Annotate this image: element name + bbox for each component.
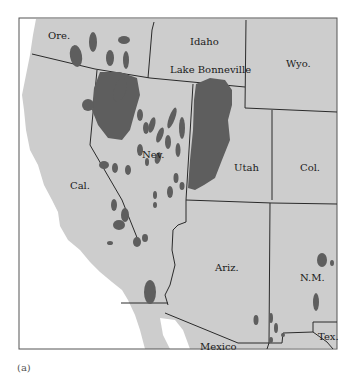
label-nevada: Nev.	[142, 149, 164, 160]
label-arizona: Ariz.	[215, 262, 239, 273]
label-lake-bonneville: Lake Bonneville	[170, 64, 251, 75]
label-wyoming: Wyo.	[286, 58, 311, 69]
label-mexico: Mexico	[200, 341, 237, 352]
figure-caption: (a)	[17, 362, 31, 373]
label-idaho: Idaho	[190, 36, 219, 47]
label-new-mexico: N.M.	[300, 272, 325, 283]
label-colorado: Col.	[300, 162, 320, 173]
label-oregon: Ore.	[48, 30, 70, 41]
label-utah: Utah	[234, 162, 259, 173]
label-california: Cal.	[70, 180, 90, 191]
label-texas: Tex.	[318, 331, 339, 342]
